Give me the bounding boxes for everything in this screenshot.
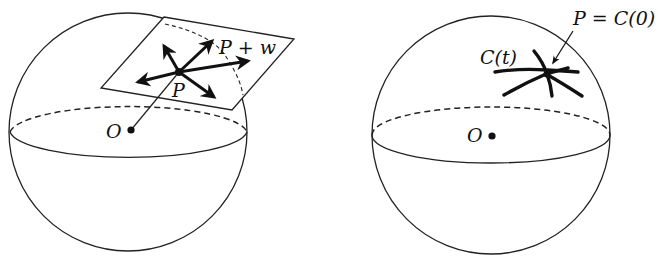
right-sphere-panel: O C(t) P = C(0) (372, 7, 655, 254)
label-point-p: P (171, 79, 186, 101)
tangent-plane (101, 17, 294, 110)
equator-front (10, 132, 247, 157)
label-origin-left: O (106, 120, 122, 142)
left-sphere-panel: O P P + w (9, 13, 294, 251)
figure: O P P + w O C(t) P = C(0) (0, 0, 667, 260)
equator-back-dashed-right (372, 107, 610, 135)
label-p-plus-w: P + w (218, 36, 276, 58)
origin-dot-right (488, 132, 495, 139)
point-p-dot-right (544, 71, 551, 78)
label-curve-ct: C(t) (480, 46, 517, 68)
label-p-equals-c0: P = C(0) (572, 7, 655, 29)
origin-dot (127, 126, 134, 133)
label-origin-right: O (467, 124, 483, 146)
point-p-dot (175, 68, 183, 76)
